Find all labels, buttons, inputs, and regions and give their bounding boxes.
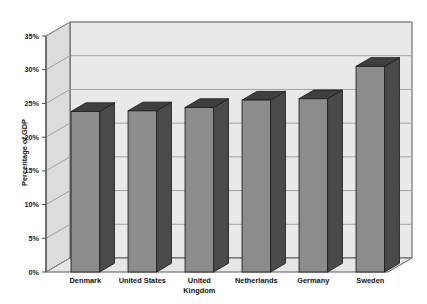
bar — [356, 58, 399, 272]
plot-left-wall — [46, 22, 70, 272]
x-category-label: United — [188, 276, 211, 285]
x-category-label: Germany — [297, 276, 330, 285]
chart-canvas: 35%30%25%20%15%10%5%0% DenmarkUnited Sta… — [0, 0, 427, 304]
y-tick-label: 10% — [25, 200, 40, 209]
bar — [299, 90, 342, 272]
y-axis-title: Percentage of GDP — [20, 119, 29, 186]
x-axis-categories: DenmarkUnited StatesUnitedKingdomNetherl… — [69, 276, 384, 295]
x-category-label: Denmark — [69, 276, 102, 285]
x-category-label: Netherlands — [235, 276, 278, 285]
bar — [242, 91, 285, 272]
bar-chart: 35%30%25%20%15%10%5%0% DenmarkUnited Sta… — [0, 0, 427, 304]
bar — [128, 102, 171, 272]
bar — [71, 103, 114, 272]
y-tick-label: 5% — [29, 234, 40, 243]
y-tick-label: 30% — [25, 65, 40, 74]
y-tick-label: 35% — [25, 32, 40, 41]
x-category-label: United States — [119, 276, 166, 285]
y-tick-label: 25% — [25, 99, 40, 108]
x-category-label: Sweden — [356, 276, 384, 285]
y-tick-label: 0% — [29, 268, 40, 277]
x-category-label-line2: Kingdom — [183, 286, 215, 295]
bar — [185, 99, 228, 272]
